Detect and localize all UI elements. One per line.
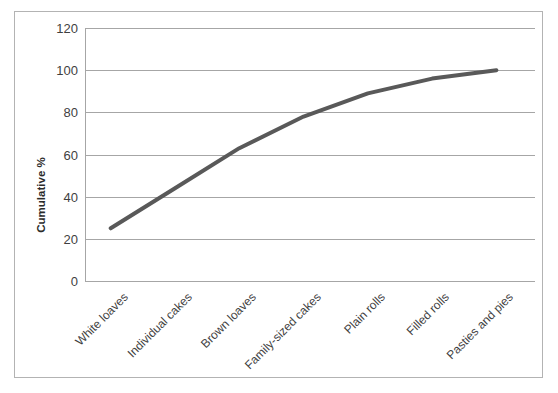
y-axis-tick-label: 80 [64,105,78,120]
y-axis-tick-label: 40 [64,189,78,204]
y-axis-title: Cumulative % [35,157,47,232]
x-axis-tick-label: White loaves [72,290,130,348]
y-axis-tick-label: 100 [56,63,78,78]
x-axis-tick-label: Plain rolls [341,290,388,337]
x-axis-tick-label: Filled rolls [404,290,452,338]
y-axis-tick-label: 0 [71,274,78,289]
y-axis-tick-label: 60 [64,147,78,162]
chart-container: Cumulative % 020406080100120 White loave… [14,11,543,378]
series-polyline [111,70,497,228]
cumulative-line-series [85,28,535,281]
x-axis-tick-label: Individual cakes [125,290,195,360]
x-axis-tick-label: Pasties and pies [444,290,516,362]
plot-area: 020406080100120 White loavesIndividual c… [85,28,535,281]
y-axis-tick-label: 120 [56,21,78,36]
y-axis-tick-label: 20 [64,231,78,246]
x-axis-tick-label: Brown loaves [198,290,259,351]
gridline [85,281,535,282]
